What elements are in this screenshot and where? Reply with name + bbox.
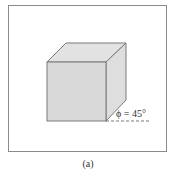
figure-canvas: ϕ = 45° (a) [0, 0, 176, 179]
figure-caption: (a) [82, 158, 93, 170]
cube [47, 43, 126, 121]
angle-label: ϕ = 45° [116, 108, 146, 119]
cube-front-face [47, 62, 106, 121]
